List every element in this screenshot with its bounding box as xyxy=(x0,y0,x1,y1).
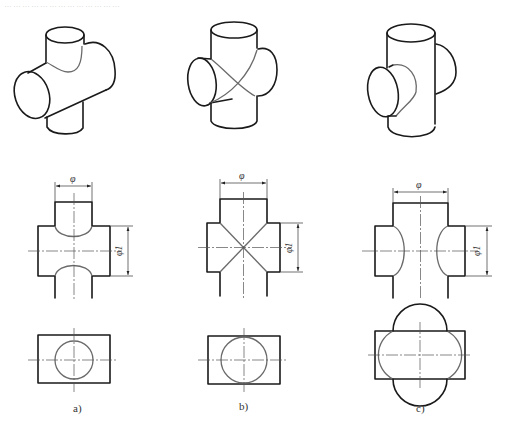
top-view-b xyxy=(198,328,286,392)
front-view-c: φ φ1 xyxy=(362,179,492,300)
caption-b: b) xyxy=(239,400,248,412)
front-view-b: φ φ1 xyxy=(198,170,303,300)
top-view-c xyxy=(368,304,472,406)
iso-view-b xyxy=(185,22,277,129)
dim-phi1-c: φ1 xyxy=(471,245,482,256)
dim-phi-b: φ xyxy=(239,170,245,181)
pipe-intersection-drawing: φ φ1 φ φ1 φ φ1 xyxy=(0,0,506,432)
caption-a: a) xyxy=(73,402,82,414)
dim-phi1-b: φ1 xyxy=(283,242,294,253)
dim-phi1-a: φ1 xyxy=(113,245,124,256)
front-view-a: φ φ1 xyxy=(28,173,133,300)
top-view-a xyxy=(28,328,116,392)
iso-view-c xyxy=(364,24,456,137)
dim-phi-a: φ xyxy=(70,173,76,184)
caption-c: c) xyxy=(416,402,425,414)
dim-phi-c: φ xyxy=(416,179,422,190)
iso-view-a xyxy=(8,27,115,134)
